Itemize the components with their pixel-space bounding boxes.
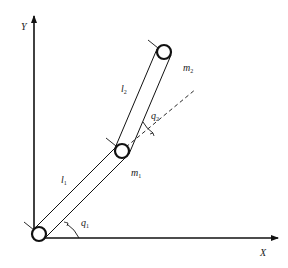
q1-angle-arc <box>67 224 79 238</box>
m1-tick <box>106 138 116 146</box>
x-axis-label: X <box>260 248 266 258</box>
m2-tick <box>148 40 158 48</box>
y-axis-label: Y <box>21 22 27 32</box>
base-tick <box>24 222 34 230</box>
mass-1-label: m1 <box>131 168 141 179</box>
angle-q1-label: q1 <box>81 218 89 229</box>
m1-joint <box>115 144 129 158</box>
m2-joint <box>157 45 171 59</box>
mass-2-label: m2 <box>183 63 193 74</box>
link-2-label: l2 <box>121 84 127 95</box>
angle-q2-label: q2 <box>151 111 159 122</box>
link-1-label: l1 <box>61 175 67 186</box>
base-joint <box>32 227 46 241</box>
link-2 <box>115 49 171 154</box>
manipulator-diagram <box>0 0 288 268</box>
